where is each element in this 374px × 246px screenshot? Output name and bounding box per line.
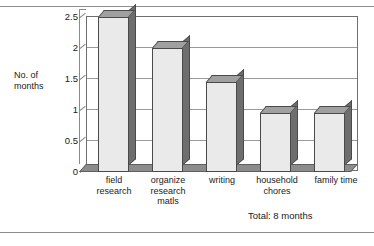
bar-series (86, 16, 358, 172)
x-label-line: research (86, 186, 142, 197)
bar-chart: No. of months 2.5 2 1.5 1 0.5 0 (0, 8, 374, 230)
bar-front-face (260, 113, 291, 172)
x-label-line: field (86, 175, 142, 186)
x-label-organize-research-matls: organize research matls (140, 175, 196, 207)
bar-front-face (152, 48, 183, 172)
axis-depth-wall (79, 9, 86, 164)
y-tick-label-0: 0 (52, 167, 78, 177)
x-axis-category-labels: field research organize research matls w… (86, 175, 366, 215)
y-tick-label-0_5: 0.5 (52, 136, 78, 146)
bar-field-research[interactable] (98, 17, 129, 172)
y-tick-label-2_5: 2.5 (52, 12, 78, 22)
y-tick-label-2: 2 (52, 43, 78, 53)
bar-top-face (206, 75, 243, 82)
bar-organize-research-matls[interactable] (152, 48, 183, 172)
y-tick-label-1: 1 (52, 105, 78, 115)
bar-front-face (206, 82, 237, 172)
x-label-line: organize (140, 175, 196, 186)
page-rule-bottom (0, 232, 374, 233)
bar-writing[interactable] (206, 82, 237, 172)
bar-side-face (183, 35, 190, 165)
bar-front-face (314, 113, 345, 172)
bar-side-face (237, 69, 244, 165)
x-label-line: writing (194, 175, 250, 186)
bar-top-face (314, 106, 351, 113)
bar-top-face (260, 106, 297, 113)
y-tick-label-1_5: 1.5 (52, 74, 78, 84)
total-annotation: Total: 8 months (248, 210, 312, 221)
bar-front-face (98, 17, 129, 172)
bar-top-face (98, 10, 135, 17)
bar-family-time[interactable] (314, 113, 345, 172)
x-label-line: research (140, 186, 196, 197)
x-label-household-chores: household chores (246, 175, 308, 196)
x-label-line: family time (305, 175, 367, 186)
y-axis-ticks: 2.5 2 1.5 1 0.5 0 (50, 16, 78, 172)
page-rule-top (0, 6, 374, 7)
bar-household-chores[interactable] (260, 113, 291, 172)
x-label-family-time: family time (305, 175, 367, 186)
x-label-line: chores (246, 186, 308, 197)
x-label-field-research: field research (86, 175, 142, 196)
bar-top-face (152, 41, 189, 48)
x-label-line: matls (140, 196, 196, 207)
x-label-line: household (246, 175, 308, 186)
x-label-writing: writing (194, 175, 250, 186)
bar-side-face (129, 4, 136, 165)
